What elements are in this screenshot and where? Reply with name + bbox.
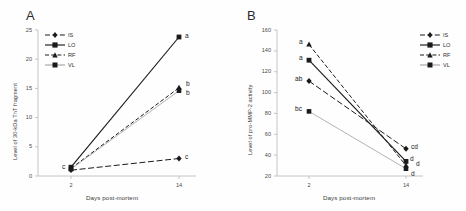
- panel-b-legend-item-vl[interactable]: VL: [419, 60, 450, 70]
- panel-b-legend-label-vl: VL: [443, 62, 450, 68]
- panel-b-annotation-ab-is: ab: [295, 75, 302, 82]
- legend-key-square-dotted-icon: [419, 60, 441, 70]
- panel-a-annotation-c-day2: c: [62, 163, 65, 170]
- panel-a-y-axis-label: Level of 30-kDa TnT fragment: [12, 83, 18, 160]
- panel-a-x-axis-label: Days post-mortem: [86, 194, 138, 201]
- panel-a-legend-item-rf[interactable]: RF: [44, 50, 75, 60]
- panel-b-annotation-d1: d: [410, 155, 414, 162]
- panel-b-ytick-60: 60: [251, 131, 271, 137]
- panel-b-ytick-80: 80: [251, 110, 271, 116]
- panel-b-annotation-cd-is: cd: [411, 143, 418, 150]
- panel-b-series-LO-point-day2: [307, 58, 312, 63]
- panel-b-ytick-40: 40: [251, 152, 271, 158]
- panel-b-legend: IS LO RF VL: [419, 30, 450, 70]
- panel-b-ytick-140: 140: [251, 47, 271, 53]
- panel-b-series-LO-point-day14: [404, 159, 409, 164]
- figure-container: A: [0, 0, 466, 211]
- panel-b-series-VL-point-day2: [307, 109, 312, 114]
- panel-a-legend-item-vl[interactable]: VL: [44, 60, 75, 70]
- panel-b-annotation-bc-vl: bc: [295, 105, 302, 112]
- panel-a-series-RF-line: [71, 88, 179, 169]
- panel-a-xtick-2: 2: [61, 182, 81, 188]
- panel-a-plot: [0, 0, 233, 211]
- panel-b-annotation-a-rf: a: [299, 38, 303, 45]
- panel-b-y-axis-label: Level of pro-MMP-2 activity: [247, 85, 253, 155]
- panel-a-legend: IS LO RF VL: [44, 30, 75, 70]
- panel-b-series-VL-point-day14: [404, 166, 409, 171]
- panel-b-legend-item-lo[interactable]: LO: [419, 40, 450, 50]
- panel-a-ytick-20: 20: [14, 56, 32, 62]
- panel-a-series-IS-point-day14: [176, 156, 181, 162]
- legend-key-triangle-dashed-icon: [44, 50, 66, 60]
- panel-a-legend-item-lo[interactable]: LO: [44, 40, 75, 50]
- panel-b-ytick-160: 160: [251, 27, 271, 33]
- panel-b-series-LO-line: [309, 60, 406, 161]
- panel-a-ytick-25: 25: [14, 27, 32, 33]
- panel-a-annotation-a-day14: a: [185, 32, 189, 39]
- panel-b-series-VL-line: [309, 111, 406, 168]
- panel-b: B: [233, 0, 466, 211]
- panel-a-legend-label-lo: LO: [68, 42, 75, 48]
- panel-b-legend-item-is[interactable]: IS: [419, 30, 450, 40]
- panel-b-annotation-d2: d: [416, 160, 420, 167]
- panel-a-annotation-b2-day14: b: [186, 89, 190, 96]
- panel-b-series-RF-line: [309, 45, 406, 166]
- panel-b-legend-label-lo: LO: [443, 42, 450, 48]
- panel-b-ytick-120: 120: [251, 68, 271, 74]
- panel-a: A: [0, 0, 233, 211]
- panel-a-annotation-b1-day14: b: [186, 80, 190, 87]
- panel-b-legend-label-is: IS: [443, 32, 448, 38]
- panel-a-series-IS-line: [71, 159, 179, 171]
- panel-b-legend-item-rf[interactable]: RF: [419, 50, 450, 60]
- panel-a-legend-label-is: IS: [68, 32, 73, 38]
- panel-a-ytick-0: 0: [14, 173, 32, 179]
- panel-b-annotation-d3: d: [411, 170, 415, 177]
- panel-b-annotation-a-lo: a: [299, 54, 303, 61]
- panel-b-legend-label-rf: RF: [443, 52, 450, 58]
- panel-b-x-axis-label: Days post-mortem: [323, 194, 375, 201]
- panel-b-series-IS-point-day2: [306, 78, 311, 84]
- panel-a-legend-label-rf: RF: [68, 52, 75, 58]
- panel-a-xtick-14: 14: [169, 182, 189, 188]
- legend-key-square-solid-icon: [44, 40, 66, 50]
- panel-b-series-RF-point-day2: [306, 42, 312, 47]
- panel-a-series-LO-point-day14: [177, 35, 182, 40]
- panel-b-ytick-100: 100: [251, 89, 271, 95]
- panel-a-legend-item-is[interactable]: IS: [44, 30, 75, 40]
- panel-b-series-IS-line: [309, 81, 406, 149]
- legend-key-diamond-dashed-icon: [44, 30, 66, 40]
- panel-a-series-VL-point-day14: [177, 88, 182, 93]
- panel-a-legend-label-vl: VL: [68, 62, 75, 68]
- legend-key-square-dotted-icon: [44, 60, 66, 70]
- legend-key-square-solid-icon: [419, 40, 441, 50]
- panel-b-series-IS-point-day14: [403, 146, 408, 152]
- panel-b-xtick-2: 2: [299, 182, 319, 188]
- legend-key-triangle-dashed-icon: [419, 50, 441, 60]
- panel-a-annotation-c-day14: c: [185, 153, 188, 160]
- legend-key-diamond-dashed-icon: [419, 30, 441, 40]
- panel-b-xtick-14: 14: [396, 182, 416, 188]
- panel-b-ytick-20: 20: [251, 173, 271, 179]
